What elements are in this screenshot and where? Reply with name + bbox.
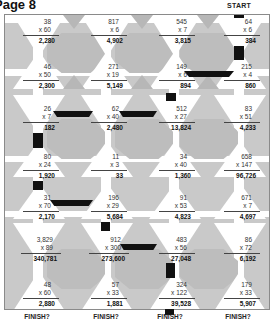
path-segment: [166, 263, 175, 278]
multiplicand: 271: [87, 63, 127, 71]
multiplier: x 56: [159, 244, 195, 254]
multiplicand: 196: [87, 194, 127, 202]
multiplicand: 57: [87, 281, 127, 289]
product: 4,902: [87, 37, 127, 45]
wedge: [131, 75, 153, 89]
page-title: Page 8: [0, 0, 36, 12]
problem-r4-c4: 658 x 147 96,726: [220, 153, 260, 180]
product: 384: [220, 37, 260, 45]
multiplicand: 31: [19, 194, 59, 202]
problem-r5-c2: 196 x 29 5,684: [87, 194, 127, 221]
product: 5,149: [87, 82, 127, 90]
multiplicand: 46: [19, 63, 59, 71]
problem-r2-c4: 215 x 4 860: [220, 63, 260, 90]
multiplicand: 48: [19, 281, 59, 289]
multiplicand: 26: [19, 105, 59, 113]
finish-label-4: FINISH?: [213, 313, 263, 320]
multiplier: x 6: [159, 71, 195, 81]
problem-r7-c4: 179 x 33 5,907: [220, 281, 260, 308]
problem-r5-c4: 671 x 7 4,697: [220, 194, 260, 221]
product: 1,360: [155, 172, 195, 180]
problem-r4-c1: 80 x 24 1,920: [19, 153, 59, 180]
problem-r5-c3: 91 x 53 4,823: [155, 194, 195, 221]
multiplier: x 50: [23, 71, 59, 81]
multiplier: x 70: [23, 202, 59, 212]
multiplier: x 7: [224, 202, 260, 212]
multiplicand: 512: [155, 105, 195, 113]
product: 5,907: [220, 300, 260, 308]
multiplier: x 6: [91, 26, 127, 36]
product: 4,823: [155, 213, 195, 221]
problem-r6-c4: 86 x 72 6,192: [220, 236, 260, 263]
multiplicand: 483: [155, 236, 195, 244]
product: 4,233: [220, 124, 260, 132]
product: 894: [155, 82, 195, 90]
maze-frame: 38 x 60 2,280 817 x 6 4,902 545 x 7 3,81…: [4, 14, 270, 310]
problem-r2-c1: 46 x 50 2,300: [19, 63, 59, 90]
product: 2,300: [19, 82, 59, 90]
multiplier: x 6: [224, 26, 260, 36]
problem-r1-c2: 817 x 6 4,902: [87, 18, 127, 45]
multiplicand: 34: [155, 153, 195, 161]
problem-r7-c3: 324 x 122 39,528: [155, 281, 195, 308]
problem-r6-c2: 912 x 300 273,600: [85, 236, 129, 263]
multiplier: x 7: [159, 26, 195, 36]
multiplicand: 671: [220, 194, 260, 202]
multiplier: x 51: [224, 113, 260, 123]
start-label: START: [226, 2, 252, 9]
product: 273,600: [85, 255, 129, 263]
multiplier: x 122: [159, 289, 195, 299]
product: 39,528: [155, 300, 195, 308]
product: 2,480: [87, 124, 127, 132]
multiplicand: 64: [220, 18, 260, 26]
problem-r4-c3: 34 x 40 1,360: [155, 153, 195, 180]
multiplicand: 91: [155, 194, 195, 202]
path-segment: [166, 93, 176, 101]
multiplier: x 19: [91, 71, 127, 81]
multiplier: x 3: [91, 161, 127, 171]
product: 340,781: [17, 255, 61, 263]
multiplier: x 29: [91, 202, 127, 212]
problem-r7-c1: 48 x 60 2,880: [19, 281, 59, 308]
multiplicand: 149: [155, 63, 195, 71]
problem-r1-c4: 64 x 6 384: [220, 18, 260, 45]
multiplicand: 324: [155, 281, 195, 289]
wedge: [197, 75, 219, 89]
multiplicand: 912: [85, 236, 129, 244]
product: 860: [220, 82, 260, 90]
problem-r1-c1: 38 x 60 2,280: [19, 18, 59, 45]
path-segment: [101, 222, 110, 231]
product: 5,684: [87, 213, 127, 221]
multiplicand: 83: [220, 105, 260, 113]
multiplier: x 72: [224, 244, 260, 254]
product: 182: [19, 124, 59, 132]
problem-r3-c2: 62 x 40 2,480: [87, 105, 127, 132]
multiplicand: 80: [19, 153, 59, 161]
multiplier: x 40: [159, 161, 195, 171]
problem-r6-c1: 3,829 x 89 340,781: [17, 236, 61, 263]
product: 13,824: [155, 124, 195, 132]
multiplicand: 62: [87, 105, 127, 113]
multiplier: x 24: [23, 161, 59, 171]
problem-r3-c4: 83 x 51 4,233: [220, 105, 260, 132]
finish-label-1: FINISH?: [12, 313, 62, 320]
problem-r6-c3: 483 x 56 27,048: [155, 236, 195, 263]
path-segment: [234, 46, 244, 60]
multiplicand: 11: [87, 153, 127, 161]
multiplier: x 4: [224, 71, 260, 81]
problem-r3-c3: 512 x 27 13,824: [155, 105, 195, 132]
product: 2,170: [19, 213, 59, 221]
finish-label-3: FINISH?: [145, 313, 195, 320]
multiplicand: 215: [220, 63, 260, 71]
multiplicand: 817: [87, 18, 127, 26]
multiplier: x 147: [224, 161, 260, 171]
problem-r2-c3: 149 x 6 894: [155, 63, 195, 90]
multiplier: x 53: [159, 202, 195, 212]
multiplicand: 545: [155, 18, 195, 26]
multiplicand: 658: [220, 153, 260, 161]
product: 1,881: [87, 300, 127, 308]
multiplier: x 40: [91, 113, 127, 123]
path-segment: [33, 181, 43, 190]
product: 6,192: [220, 255, 260, 263]
problem-r2-c2: 271 x 19 5,149: [87, 63, 127, 90]
